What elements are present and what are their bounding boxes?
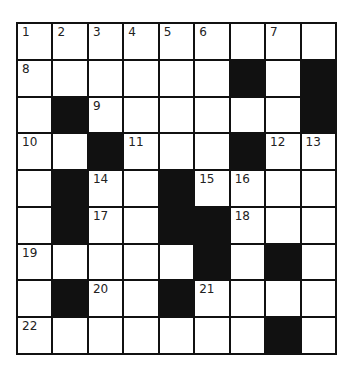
clue-number: 5 <box>164 26 172 38</box>
crossword-cell[interactable]: 21 <box>195 281 228 316</box>
crossword-cell[interactable] <box>53 245 86 280</box>
crossword-cell[interactable] <box>266 98 299 133</box>
crossword-cell[interactable] <box>195 61 228 96</box>
crossword-cell[interactable] <box>89 245 122 280</box>
crossword-cell[interactable] <box>266 281 299 316</box>
crossword-cell[interactable]: 15 <box>195 171 228 206</box>
crossword-cell[interactable]: 22 <box>18 318 51 353</box>
crossword-cell[interactable] <box>18 281 51 316</box>
crossword-cell[interactable]: 20 <box>89 281 122 316</box>
clue-number: 22 <box>22 320 37 332</box>
crossword-cell[interactable] <box>89 61 122 96</box>
crossword-cell[interactable] <box>89 318 122 353</box>
crossword-cell[interactable] <box>231 318 264 353</box>
crossword-cell[interactable] <box>18 171 51 206</box>
crossword-cell[interactable]: 8 <box>18 61 51 96</box>
crossword-cell[interactable] <box>302 245 335 280</box>
crossword-cell[interactable] <box>195 134 228 169</box>
black-square <box>231 134 264 169</box>
black-square <box>266 245 299 280</box>
crossword-cell[interactable]: 13 <box>302 134 335 169</box>
crossword-cell[interactable]: 10 <box>18 134 51 169</box>
black-square <box>53 98 86 133</box>
crossword-cell[interactable] <box>160 61 193 96</box>
crossword-cell[interactable] <box>231 98 264 133</box>
crossword-cell[interactable] <box>124 98 157 133</box>
black-square <box>53 208 86 243</box>
crossword-cell[interactable] <box>160 245 193 280</box>
crossword-cell[interactable] <box>124 208 157 243</box>
crossword-cell[interactable]: 4 <box>124 24 157 59</box>
crossword-cell[interactable] <box>302 281 335 316</box>
crossword-cell[interactable]: 3 <box>89 24 122 59</box>
crossword-cell[interactable] <box>53 318 86 353</box>
clue-number: 10 <box>22 136 37 148</box>
clue-number: 14 <box>93 173 108 185</box>
crossword-cell[interactable] <box>160 318 193 353</box>
crossword-cell[interactable] <box>266 171 299 206</box>
crossword-cell[interactable]: 6 <box>195 24 228 59</box>
crossword-cell[interactable] <box>124 245 157 280</box>
crossword-cell[interactable] <box>18 98 51 133</box>
black-square <box>195 245 228 280</box>
crossword-cell[interactable] <box>302 24 335 59</box>
black-square <box>160 281 193 316</box>
crossword-cell[interactable]: 1 <box>18 24 51 59</box>
crossword-cell[interactable]: 12 <box>266 134 299 169</box>
clue-number: 6 <box>199 26 207 38</box>
clue-number: 19 <box>22 247 37 259</box>
crossword-cell[interactable] <box>195 318 228 353</box>
crossword-cell[interactable] <box>53 61 86 96</box>
crossword-cell[interactable]: 18 <box>231 208 264 243</box>
black-square <box>53 171 86 206</box>
crossword-cell[interactable]: 14 <box>89 171 122 206</box>
crossword-cell[interactable]: 5 <box>160 24 193 59</box>
crossword-cell[interactable]: 19 <box>18 245 51 280</box>
crossword-cell[interactable] <box>124 61 157 96</box>
black-square <box>89 134 122 169</box>
black-square <box>266 318 299 353</box>
crossword-cell[interactable] <box>231 245 264 280</box>
crossword-cell[interactable]: 11 <box>124 134 157 169</box>
clue-number: 1 <box>22 26 30 38</box>
black-square <box>53 281 86 316</box>
crossword-cell[interactable] <box>195 98 228 133</box>
crossword-cell[interactable]: 2 <box>53 24 86 59</box>
crossword-cell[interactable] <box>18 208 51 243</box>
crossword-cell[interactable] <box>160 98 193 133</box>
crossword-cell[interactable] <box>124 171 157 206</box>
clue-number: 13 <box>306 136 321 148</box>
clue-number: 20 <box>93 283 108 295</box>
clue-number: 17 <box>93 210 108 222</box>
crossword-cell[interactable] <box>124 281 157 316</box>
black-square <box>160 171 193 206</box>
clue-number: 16 <box>235 173 250 185</box>
crossword-cell[interactable] <box>160 134 193 169</box>
black-square <box>231 61 264 96</box>
clue-number: 8 <box>22 63 30 75</box>
crossword-cell[interactable] <box>124 318 157 353</box>
crossword-grid: 12345678910111213141516171819202122 <box>16 22 337 355</box>
black-square <box>160 208 193 243</box>
clue-number: 9 <box>93 100 101 112</box>
clue-number: 2 <box>57 26 65 38</box>
black-square <box>302 61 335 96</box>
crossword-cell[interactable]: 7 <box>266 24 299 59</box>
crossword-cell[interactable] <box>53 134 86 169</box>
clue-number: 18 <box>235 210 250 222</box>
crossword-cell[interactable] <box>231 281 264 316</box>
crossword-cell[interactable] <box>266 208 299 243</box>
clue-number: 7 <box>270 26 278 38</box>
clue-number: 11 <box>128 136 143 148</box>
crossword-cell[interactable] <box>302 208 335 243</box>
crossword-cell[interactable] <box>266 61 299 96</box>
black-square <box>195 208 228 243</box>
crossword-cell[interactable]: 17 <box>89 208 122 243</box>
crossword-cell[interactable]: 9 <box>89 98 122 133</box>
crossword-cell[interactable] <box>302 171 335 206</box>
clue-number: 21 <box>199 283 214 295</box>
crossword-cell[interactable] <box>231 24 264 59</box>
crossword-cell[interactable] <box>302 318 335 353</box>
crossword-cell[interactable]: 16 <box>231 171 264 206</box>
clue-number: 4 <box>128 26 136 38</box>
